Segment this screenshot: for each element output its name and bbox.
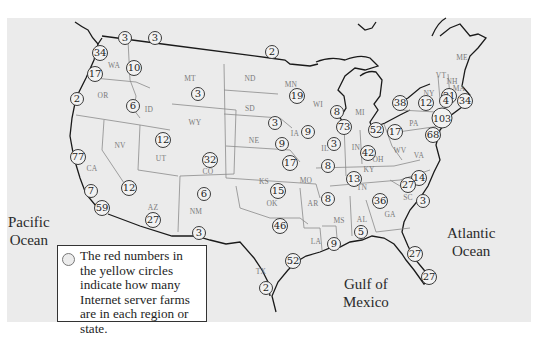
marker-sc: 3	[416, 194, 430, 208]
marker-nd-mn-border: 2	[265, 45, 279, 59]
state-label-mt: MT	[184, 74, 196, 83]
marker-bc: 3	[118, 31, 132, 45]
state-label-co: CO	[203, 167, 214, 176]
marker-wa-coast: 34	[92, 45, 108, 61]
marker-nc-sc: 27	[400, 177, 416, 193]
state-label-sd: SD	[245, 104, 255, 113]
marker-ok: 15	[270, 183, 286, 199]
marker-nm-south: 3	[192, 226, 206, 240]
state-label-wv: WV	[394, 146, 407, 155]
marker-ms-la: 9	[327, 237, 341, 251]
marker-il-chicago: 73	[336, 119, 352, 135]
state-label-la: LA	[311, 237, 321, 246]
marker-mt: 3	[191, 87, 205, 101]
marker-alberta: 3	[148, 31, 162, 45]
state-label-oh: OH	[372, 155, 383, 164]
state-label-ar: AR	[308, 199, 319, 208]
marker-id: 6	[126, 99, 140, 113]
state-label-mo: MO	[300, 176, 313, 185]
marker-ca-east: 12	[121, 180, 137, 196]
hudson-bay-fragment	[358, 22, 376, 30]
state-label-mn: MN	[285, 80, 298, 89]
marker-ut: 12	[155, 132, 171, 148]
ocean-label-line1: Pacific	[8, 213, 50, 231]
marker-ne-sd: 3	[268, 116, 282, 130]
state-label-tx: TX	[256, 267, 266, 276]
state-label-id: ID	[145, 105, 153, 114]
state-label-vt: VT	[436, 71, 446, 80]
marker-ma: 34	[457, 93, 473, 109]
east-gulf-coast	[272, 18, 486, 312]
marker-wi: 8	[330, 105, 344, 119]
marker-ar: 8	[321, 192, 335, 206]
state-label-ma: MA	[453, 84, 466, 93]
marker-md-dc: 68	[425, 127, 441, 143]
state-label-sc: SC	[403, 193, 413, 202]
ocean-label-gulf: Gulf ofMexico	[343, 275, 389, 311]
marker-ca-north: 77	[70, 149, 86, 165]
marker-wa: 10	[126, 60, 142, 76]
state-label-ky: KY	[363, 165, 374, 174]
marker-al: 5	[354, 225, 368, 239]
state-label-ga: GA	[384, 210, 395, 219]
state-label-ms: MS	[333, 216, 344, 225]
state-label-az: AZ	[148, 203, 158, 212]
state-label-il: IL	[321, 144, 328, 153]
state-label-pa: PA	[409, 119, 418, 128]
marker-oh: 17	[387, 124, 403, 140]
marker-ga: 36	[372, 193, 388, 209]
marker-tx-houston: 52	[285, 253, 301, 269]
marker-ca-central: 7	[84, 184, 98, 198]
marker-ks: 17	[282, 155, 298, 171]
ocean-label-atlantic: AtlanticOcean	[447, 224, 495, 260]
state-label-nm: NM	[190, 207, 203, 216]
state-label-wa: WA	[108, 61, 120, 70]
state-label-me: ME	[456, 53, 468, 62]
state-label-wi: WI	[313, 100, 323, 109]
state-label-va: VA	[414, 151, 424, 160]
marker-fl-north: 27	[407, 246, 423, 262]
marker-tx-south: 2	[259, 281, 273, 295]
state-label-al: AL	[357, 215, 367, 224]
ocean-label-line2: Mexico	[343, 293, 389, 311]
state-label-in: IN	[352, 143, 360, 152]
marker-fl-south: 27	[421, 269, 437, 285]
marker-mo: 8	[321, 159, 335, 173]
ocean-label-pacific: PacificOcean	[8, 213, 50, 249]
marker-ca-south: 59	[94, 200, 110, 216]
marker-or: 2	[70, 92, 84, 106]
marker-nj-nyc: 103	[432, 108, 453, 129]
marker-ny-east: 4	[439, 94, 453, 108]
marker-nm: 6	[197, 187, 211, 201]
state-label-ny: NY	[423, 89, 434, 98]
state-label-wy: WY	[189, 118, 202, 127]
marker-ia: 9	[301, 125, 315, 139]
state-label-nd: ND	[244, 74, 255, 83]
state-label-ut: UT	[156, 154, 166, 163]
state-label-ok: OK	[266, 199, 277, 208]
legend-circle-icon	[62, 253, 75, 266]
state-label-nv: NV	[114, 141, 125, 150]
ocean-label-line1: Atlantic	[447, 224, 495, 242]
lake-michigan	[316, 56, 378, 124]
legend-text: The red numbers in the yellow circles in…	[80, 249, 200, 337]
marker-mn: 19	[289, 88, 305, 104]
state-label-ne: NE	[249, 136, 259, 145]
marker-az: 27	[145, 212, 161, 228]
ocean-label-line2: Ocean	[447, 242, 495, 260]
marker-ne: 9	[275, 137, 289, 151]
lake-huron	[360, 72, 382, 129]
marker-il: 3	[327, 137, 341, 151]
marker-wa-south: 17	[87, 66, 103, 82]
state-label-ks: KS	[259, 177, 269, 186]
marker-tx-north: 46	[272, 218, 288, 234]
state-label-tn: TN	[357, 183, 367, 192]
state-label-mi: MI	[355, 108, 365, 117]
marker-oh-north: 52	[368, 122, 384, 138]
ocean-label-line1: Gulf of	[343, 275, 389, 293]
legend-box: The red numbers in the yellow circles in…	[57, 245, 207, 322]
state-label-ca: CA	[87, 164, 98, 173]
marker-ny-west: 38	[392, 95, 408, 111]
puget-sound	[75, 22, 102, 44]
state-label-or: OR	[98, 91, 109, 100]
